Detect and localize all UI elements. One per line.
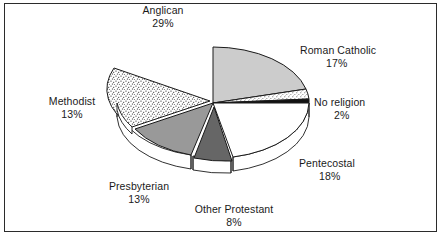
pie-label-presbyterian-value: 13% <box>86 193 192 206</box>
pie-label-pentecostal-name: Pentecostal <box>299 157 409 170</box>
pie-label-roman-catholic: Roman Catholic 17% <box>300 44 425 69</box>
pie-label-roman-catholic-value: 17% <box>300 57 425 70</box>
screenshot-root: Anglican 29% Roman Catholic 17% No relig… <box>0 0 443 238</box>
pie-label-pentecostal-value: 18% <box>299 170 409 183</box>
pie-chart: Anglican 29% Roman Catholic 17% No relig… <box>0 0 443 238</box>
pie-label-presbyterian: Presbyterian 13% <box>86 180 192 205</box>
pie-label-presbyterian-name: Presbyterian <box>86 180 192 193</box>
pie-label-methodist-name: Methodist <box>27 95 117 108</box>
pie-label-no-religion: No religion 2% <box>314 96 424 121</box>
pie-label-other-protestant: Other Protestant 8% <box>166 203 302 228</box>
pie-label-anglican-value: 29% <box>108 17 218 30</box>
pie-label-methodist-value: 13% <box>27 108 117 121</box>
pie-label-roman-catholic-name: Roman Catholic <box>300 44 425 57</box>
pie-label-methodist: Methodist 13% <box>27 95 117 120</box>
pie-label-other-protestant-value: 8% <box>166 216 302 229</box>
pie-label-anglican: Anglican 29% <box>108 4 218 29</box>
pie-label-pentecostal: Pentecostal 18% <box>299 157 409 182</box>
pie-label-no-religion-value: 2% <box>314 109 424 122</box>
pie-label-no-religion-name: No religion <box>314 96 424 109</box>
pie-label-anglican-name: Anglican <box>108 4 218 17</box>
